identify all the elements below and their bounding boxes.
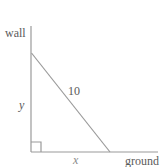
hypotenuse-length-label: 10: [68, 85, 80, 97]
vertical-leg-label: y: [19, 99, 24, 111]
wall-label: wall: [5, 27, 26, 39]
hypotenuse-line: [32, 53, 111, 152]
right-angle-marker: [31, 142, 41, 152]
ground-label: ground: [125, 155, 159, 167]
horizontal-leg-label: x: [73, 154, 78, 166]
right-triangle-diagram: wall ground 10 y x: [0, 0, 165, 167]
